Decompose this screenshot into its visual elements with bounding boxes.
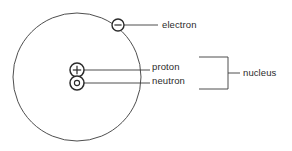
neutron-particle — [70, 76, 84, 90]
proton-particle — [70, 63, 84, 77]
label-electron: electron — [162, 20, 197, 30]
electron-particle — [112, 19, 124, 31]
label-proton: proton — [152, 62, 180, 72]
label-neutron: neutron — [152, 76, 185, 86]
nucleus-bracket — [199, 57, 228, 89]
atom-diagram: electron proton neutron nucleus — [0, 0, 292, 151]
label-nucleus: nucleus — [243, 68, 276, 78]
